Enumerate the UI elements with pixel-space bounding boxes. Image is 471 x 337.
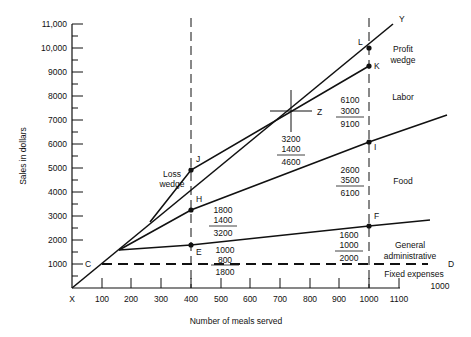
svg-text:administrative: administrative (384, 251, 437, 261)
svg-text:X: X (69, 294, 75, 304)
svg-text:C: C (85, 259, 91, 269)
svg-text:1000: 1000 (340, 240, 359, 250)
svg-text:500: 500 (214, 294, 228, 304)
svg-text:D: D (448, 259, 454, 269)
svg-text:Food: Food (393, 176, 413, 186)
svg-text:6100: 6100 (341, 95, 360, 105)
svg-text:4000: 4000 (48, 187, 67, 197)
svg-text:H: H (196, 194, 202, 204)
svg-text:6100: 6100 (341, 188, 360, 198)
svg-text:3200: 3200 (282, 134, 301, 144)
svg-text:1400: 1400 (214, 215, 233, 225)
svg-text:8000: 8000 (48, 91, 67, 101)
svg-text:3000: 3000 (48, 211, 67, 221)
svg-text:9000: 9000 (48, 67, 67, 77)
svg-text:J: J (196, 154, 200, 164)
x-ticks (102, 278, 399, 288)
svg-text:700: 700 (273, 294, 287, 304)
y-tick-labels: 11,000 10,000 9000 8000 7000 6000 5000 4… (41, 19, 67, 269)
svg-text:5000: 5000 (48, 163, 67, 173)
stack-I: 2600 3500 6100 (336, 165, 364, 198)
svg-text:3500: 3500 (341, 175, 360, 185)
y-axis-title: Sales in dollars (18, 127, 28, 185)
svg-text:1000: 1000 (48, 259, 67, 269)
svg-text:Z: Z (317, 107, 322, 117)
svg-text:Profit: Profit (393, 44, 413, 54)
svg-text:K: K (374, 61, 380, 71)
svg-text:General: General (395, 240, 425, 250)
svg-text:E: E (196, 247, 202, 257)
svg-text:2600: 2600 (341, 165, 360, 175)
stack-Z: 3200 1400 4600 (277, 134, 305, 167)
svg-text:Y: Y (399, 14, 405, 24)
x-tick-labels: X 100 200 300 400 500 600 700 800 900 10… (69, 294, 408, 304)
svg-text:1000: 1000 (216, 245, 235, 255)
svg-text:1000: 1000 (431, 281, 450, 291)
stack-F: 1600 1000 2000 (335, 230, 363, 263)
svg-text:wedge: wedge (389, 55, 415, 65)
svg-text:1800: 1800 (216, 267, 235, 277)
svg-text:2000: 2000 (340, 253, 359, 263)
svg-text:F: F (374, 211, 379, 221)
svg-text:Loss: Loss (163, 169, 181, 179)
svg-text:1600: 1600 (340, 230, 359, 240)
svg-text:6000: 6000 (48, 139, 67, 149)
stack-K: 6100 3000 9100 (336, 95, 364, 129)
svg-text:100: 100 (95, 294, 109, 304)
stack-E: 1000 800 1800 (211, 245, 239, 277)
svg-text:7000: 7000 (48, 115, 67, 125)
svg-text:800: 800 (303, 294, 317, 304)
svg-text:10,000: 10,000 (41, 43, 67, 53)
svg-text:wedge: wedge (158, 179, 184, 189)
svg-text:Fixed expenses: Fixed expenses (384, 269, 444, 279)
svg-text:Labor: Labor (392, 92, 414, 102)
svg-text:I: I (374, 142, 376, 152)
stack-H: 1800 1400 3200 (209, 205, 237, 238)
svg-text:L: L (358, 37, 363, 47)
svg-text:3000: 3000 (341, 106, 360, 116)
x-axis-title: Number of meals served (190, 316, 283, 326)
y-ticks (72, 24, 83, 276)
svg-text:9100: 9100 (341, 119, 360, 129)
svg-text:3200: 3200 (214, 228, 233, 238)
svg-text:4600: 4600 (282, 157, 301, 167)
svg-text:11,000: 11,000 (42, 19, 68, 29)
svg-text:600: 600 (243, 294, 257, 304)
svg-text:1400: 1400 (282, 144, 301, 154)
svg-text:1100: 1100 (390, 294, 409, 304)
svg-text:1800: 1800 (214, 205, 233, 215)
svg-text:400: 400 (184, 294, 198, 304)
svg-text:200: 200 (124, 294, 138, 304)
svg-text:800: 800 (218, 255, 232, 265)
svg-text:300: 300 (154, 294, 168, 304)
svg-text:1000: 1000 (360, 294, 379, 304)
svg-text:2000: 2000 (48, 235, 67, 245)
break-even-chart: 11,000 10,000 9000 8000 7000 6000 5000 4… (0, 0, 471, 337)
svg-text:900: 900 (332, 294, 346, 304)
